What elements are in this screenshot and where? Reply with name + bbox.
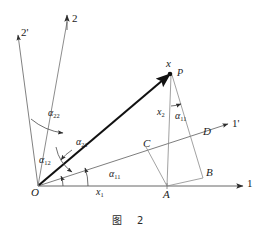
axis-1prime-label: 1' bbox=[232, 118, 239, 129]
component-x2-label: x2 bbox=[157, 107, 165, 118]
angle-arc-a22 bbox=[31, 119, 63, 133]
angle-a22-sub: 22 bbox=[53, 112, 59, 119]
angle-a11-sub: 11 bbox=[114, 173, 120, 180]
point-marker-P bbox=[168, 72, 173, 77]
component-x2-sub: 2 bbox=[161, 111, 164, 118]
figure-caption: 图 2 bbox=[112, 212, 144, 227]
angle-a12-label: α12 bbox=[39, 155, 51, 166]
point-O-label: O bbox=[31, 187, 39, 198]
figure-container: 2 1 1' 2' O x P A B C D x1 x2 α11 α11 α1… bbox=[0, 0, 267, 235]
axis-1-label: 1 bbox=[247, 178, 253, 189]
point-A-label: A bbox=[163, 189, 170, 200]
axis-2prime-line bbox=[18, 35, 38, 186]
angle-a12-sub: 12 bbox=[44, 159, 50, 166]
angle-a21-sub: 21 bbox=[81, 141, 87, 148]
angle-a21-label: α21 bbox=[76, 137, 88, 148]
vector-OP bbox=[39, 74, 170, 185]
segment-A-C bbox=[146, 147, 167, 186]
point-x-label: x bbox=[166, 58, 171, 69]
segment-P-A bbox=[167, 75, 171, 186]
point-D-label: D bbox=[203, 126, 211, 137]
figure-caption-number: 2 bbox=[137, 215, 144, 226]
angle-a11-label: α11 bbox=[109, 169, 120, 180]
component-x1-label: x1 bbox=[96, 187, 104, 198]
angle-a22-label: α22 bbox=[48, 108, 60, 119]
angle-a11-top-label: α11 bbox=[175, 111, 186, 122]
angle-a11-top-sub: 11 bbox=[180, 115, 186, 122]
angle-arc-a11-at-P bbox=[171, 104, 181, 106]
point-C-label: C bbox=[143, 138, 150, 149]
axis-2-label: 2 bbox=[72, 13, 78, 24]
axis-2prime-label: 2' bbox=[21, 27, 28, 38]
segment-A-B bbox=[167, 178, 203, 186]
figure-drawing bbox=[0, 0, 267, 235]
figure-caption-word: 图 bbox=[112, 215, 123, 226]
point-B-label: B bbox=[206, 167, 213, 178]
point-P-label: P bbox=[177, 68, 183, 78]
component-x1-sub: 1 bbox=[100, 191, 103, 198]
segment-P-B bbox=[172, 75, 203, 178]
axis-1prime-line bbox=[38, 124, 228, 186]
